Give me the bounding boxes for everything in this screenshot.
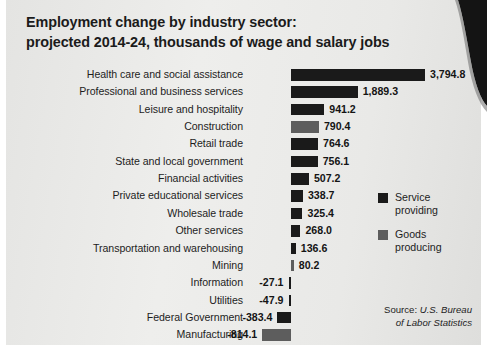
chart-bar-row: State and local government756.1 xyxy=(0,153,487,170)
legend-item-service-providing: Service providing xyxy=(378,191,478,217)
legend-label-goods-word-1: Goods xyxy=(395,228,478,241)
legend-label-goods-producing: Goods producing xyxy=(395,228,478,254)
bar-value-label: 941.2 xyxy=(329,101,356,118)
legend-item-goods-producing: Goods producing xyxy=(378,228,478,254)
legend-swatch-service-providing-icon xyxy=(378,193,388,203)
chart-bar-row: Information-27.1 xyxy=(0,274,487,291)
bar-category-label: Health care and social assistance xyxy=(0,66,243,83)
chart-legend: Service providing Goods producing xyxy=(378,191,478,265)
chart-bar xyxy=(277,312,291,324)
bar-category-label: Wholesale trade xyxy=(0,205,243,222)
bar-value-label: 3,794.8 xyxy=(430,66,465,83)
bar-value-label: -814.1 xyxy=(227,326,257,343)
chart-bar-row: Retail trade764.6 xyxy=(0,135,487,152)
chart-bar-row: Financial activities507.2 xyxy=(0,170,487,187)
bar-value-label: -47.9 xyxy=(259,292,283,309)
bar-value-label: 338.7 xyxy=(308,187,335,204)
bar-category-label: Leisure and hospitality xyxy=(0,101,243,118)
chart-bar xyxy=(291,173,309,185)
bar-value-label: 1,889.3 xyxy=(363,83,398,100)
bar-category-label: Transportation and warehousing xyxy=(0,240,243,257)
bar-value-label: 268.0 xyxy=(305,222,332,239)
chart-bar xyxy=(291,69,425,81)
chart-title-line-1: Employment change by industry sector: xyxy=(26,12,446,32)
chart-bar xyxy=(291,208,302,220)
chart-bar xyxy=(289,277,292,289)
chart-bar xyxy=(291,138,318,150)
legend-swatch-goods-producing-icon xyxy=(378,230,388,240)
chart-bar xyxy=(262,329,291,341)
bar-category-label: Mining xyxy=(0,257,243,274)
source-line-1: Source: U.S. Bureau xyxy=(352,304,472,317)
chart-bar xyxy=(291,190,303,202)
chart-bar xyxy=(291,121,319,133)
bar-value-label: -383.4 xyxy=(242,309,272,326)
bar-value-label: 756.1 xyxy=(323,153,350,170)
bar-value-label: 325.4 xyxy=(307,205,334,222)
chart-bar xyxy=(291,156,318,168)
chart-source-note: Source: U.S. Bureau of Labor Statistics xyxy=(352,304,472,330)
chart-bar-row: Health care and social assistance3,794.8 xyxy=(0,66,487,83)
bar-category-label: Private educational services xyxy=(0,187,243,204)
bar-category-label: Professional and business services xyxy=(0,83,243,100)
chart-bar-row: Leisure and hospitality941.2 xyxy=(0,101,487,118)
legend-label-service-word-2: providing xyxy=(395,204,478,217)
legend-label-service-word-1: Service xyxy=(395,191,478,204)
bar-category-label: Construction xyxy=(0,118,243,135)
chart-bar xyxy=(291,260,294,272)
bar-category-label: Other services xyxy=(0,222,243,239)
source-org-line-2: of Labor Statistics xyxy=(352,317,472,330)
chart-bar xyxy=(291,104,324,116)
chart-bar xyxy=(291,243,296,255)
chart-bar xyxy=(291,225,300,237)
chart-title-line-2: projected 2014-24, thousands of wage and… xyxy=(26,32,446,52)
bar-value-label: 136.6 xyxy=(301,240,328,257)
source-org-line-1: U.S. Bureau xyxy=(420,304,472,315)
chart-bar xyxy=(289,295,292,307)
chart-bar-row: Construction790.4 xyxy=(0,118,487,135)
bar-category-label: Financial activities xyxy=(0,170,243,187)
bar-category-label: Information xyxy=(0,274,243,291)
bar-value-label: 764.6 xyxy=(323,135,350,152)
bar-value-label: 507.2 xyxy=(314,170,341,187)
chart-bar-row: Professional and business services1,889.… xyxy=(0,83,487,100)
bar-value-label: 790.4 xyxy=(324,118,351,135)
bar-category-label: Retail trade xyxy=(0,135,243,152)
chart-title: Employment change by industry sector: pr… xyxy=(26,12,446,53)
bar-value-label: 80.2 xyxy=(299,257,320,274)
bar-value-label: -27.1 xyxy=(259,274,283,291)
bar-category-label: Manufacturing xyxy=(0,326,243,343)
bar-category-label: Utilities xyxy=(0,292,243,309)
chart-bar xyxy=(291,86,358,98)
legend-label-service-providing: Service providing xyxy=(395,191,478,217)
chart-figure: Employment change by industry sector: pr… xyxy=(0,0,487,363)
source-prefix: Source: xyxy=(384,304,417,315)
bar-category-label: State and local government xyxy=(0,153,243,170)
legend-label-goods-word-2: producing xyxy=(395,241,478,254)
bar-category-label: Federal Government xyxy=(0,309,243,326)
